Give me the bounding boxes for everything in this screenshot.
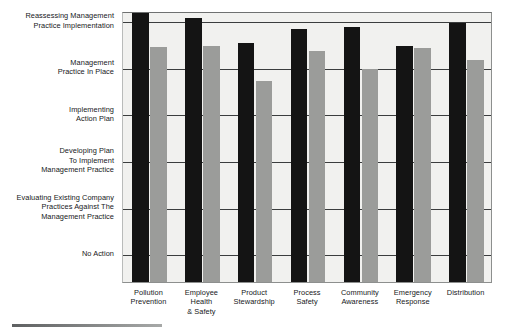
bar [203,46,220,282]
x-axis-tick-label: EmergencyResponse [386,288,439,307]
y-axis-tick-label: ImplementingAction Plan [69,105,114,124]
y-axis-tick-label: Developing PlanTo ImplementManagement Pr… [41,146,114,174]
chart-page: Reassessing ManagementPractice Implement… [0,0,505,333]
y-axis-tick-label: ManagementPractice In Place [58,58,114,77]
bar [238,43,255,282]
bar [362,69,379,282]
x-axis-tick-label: EmployeeHealth& Safety [175,288,228,316]
x-axis-labels: PollutionPreventionEmployeeHealth& Safet… [122,288,492,330]
bar-group [282,13,335,282]
bar [291,29,308,282]
bar-group [334,13,387,282]
x-axis-tick-label: ProductStewardship [228,288,281,307]
bar [344,27,361,282]
x-axis-tick-label: Distribution [439,288,492,297]
x-axis-tick-label: PollutionPrevention [122,288,175,307]
bar [256,81,273,282]
bar-group [229,13,282,282]
y-axis-tick-label: Reassessing ManagementPractice Implement… [25,11,114,30]
bottom-rule-decoration [12,324,162,327]
bar [309,51,326,282]
bar-group [440,13,493,282]
plot-area [122,12,492,283]
x-axis-tick-label: ProcessSafety [281,288,334,307]
bar [449,23,466,282]
bar [185,18,202,282]
y-axis-labels: Reassessing ManagementPractice Implement… [0,0,120,290]
bar [150,47,167,282]
bar-group [123,13,176,282]
x-axis-tick-label: CommunityAwareness [333,288,386,307]
bar-groups [123,13,491,282]
bar [467,60,484,282]
bar [132,13,149,282]
y-axis-tick-label: No Action [82,249,114,258]
bar [414,48,431,282]
bar-group [387,13,440,282]
bar-group [176,13,229,282]
bar [396,46,413,282]
y-axis-tick-label: Evaluating Existing CompanyPractices Aga… [17,193,114,221]
